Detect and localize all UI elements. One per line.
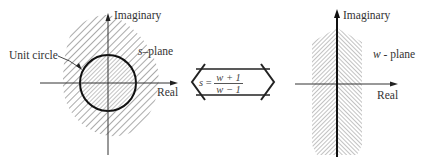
w-plane-text: - plane [381, 48, 415, 60]
w-right-hatch [337, 28, 362, 155]
w-imaginary-label: Imaginary [343, 10, 390, 22]
s-imaginary-label: Imaginary [114, 10, 161, 22]
w-real-arrow-icon [390, 82, 398, 87]
mapping-formula: s = w + 1 w − 1 [199, 72, 253, 95]
unit-circle-label: Unit circle [9, 50, 58, 62]
w-left-hatch [312, 28, 337, 155]
w-real-label: Real [377, 90, 398, 102]
s-real-arrow-icon [170, 81, 178, 86]
formula-equals: = [206, 77, 212, 88]
s-plane-label: s–plane [138, 46, 173, 58]
formula-numerator: w + 1 [214, 72, 243, 84]
formula-denominator: w − 1 [214, 84, 243, 95]
w-plane-label: w - plane [373, 49, 415, 61]
s-real-label: Real [157, 87, 178, 99]
formula-fraction: w + 1 w − 1 [214, 72, 243, 95]
w-imag-arrow-icon [334, 9, 340, 18]
formula-lhs: s [199, 77, 203, 88]
w-var: w [373, 48, 381, 60]
s-plane-text: –plane [142, 45, 173, 57]
